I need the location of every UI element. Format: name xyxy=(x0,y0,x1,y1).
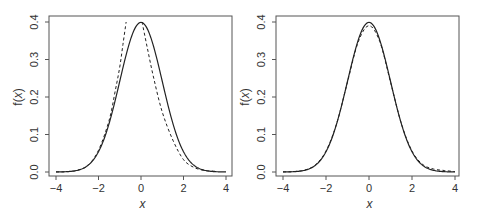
y-tick-label: 0.2 xyxy=(255,89,267,104)
y-tick-label: 0.2 xyxy=(28,89,40,104)
x-axis: −4−2024x xyxy=(277,176,458,211)
y-tick-label: 0.1 xyxy=(255,127,267,142)
normal-density-curve xyxy=(56,22,226,172)
x-tick-label: 0 xyxy=(366,182,372,194)
plot-frame xyxy=(276,16,459,176)
approximation-dashed-curve xyxy=(56,22,215,172)
normal-density-curve xyxy=(283,22,455,172)
y-tick-label: 0.3 xyxy=(255,52,267,67)
x-tick-label: −2 xyxy=(320,182,333,194)
y-axis-label: f(x) xyxy=(11,88,25,105)
series-group xyxy=(56,22,226,172)
y-tick-label: 0.0 xyxy=(255,164,267,179)
x-axis: −4−2024x xyxy=(50,176,229,211)
y-tick-label: 0.1 xyxy=(28,127,40,142)
y-axis: 0.00.10.20.30.4f(x) xyxy=(11,14,49,179)
x-tick-label: 4 xyxy=(452,182,458,194)
right-plot-svg: −4−2024x0.00.10.20.30.4f(x) xyxy=(227,0,477,220)
series-group xyxy=(283,22,455,172)
x-tick-label: −4 xyxy=(50,182,63,194)
y-tick-label: 0.3 xyxy=(28,52,40,67)
x-tick-label: −4 xyxy=(277,182,290,194)
y-axis: 0.00.10.20.30.4f(x) xyxy=(238,14,276,179)
x-tick-label: 2 xyxy=(409,182,415,194)
x-axis-label: x xyxy=(366,197,374,211)
x-tick-label: 2 xyxy=(180,182,186,194)
y-tick-label: 0.4 xyxy=(28,14,40,29)
left-plot-panel: −4−2024x0.00.10.20.30.4f(x) xyxy=(0,0,238,220)
right-plot-panel: −4−2024x0.00.10.20.30.4f(x) xyxy=(227,0,465,220)
y-axis-label: f(x) xyxy=(238,88,252,105)
plot-frame xyxy=(49,16,232,176)
x-tick-label: −2 xyxy=(92,182,105,194)
x-axis-label: x xyxy=(139,197,147,211)
left-plot-svg: −4−2024x0.00.10.20.30.4f(x) xyxy=(0,0,238,220)
x-tick-label: 0 xyxy=(138,182,144,194)
y-tick-label: 0.0 xyxy=(28,164,40,179)
approximation-dashed-curve xyxy=(283,26,455,172)
y-tick-label: 0.4 xyxy=(255,14,267,29)
